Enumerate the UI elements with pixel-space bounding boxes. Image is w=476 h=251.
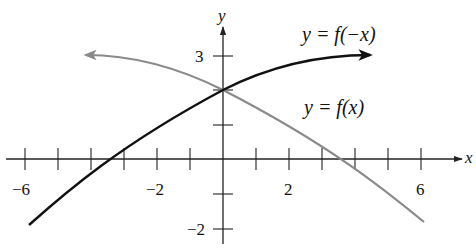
- y-axis-label: y: [216, 6, 226, 25]
- tick-label-x-neg2: −2: [146, 180, 164, 199]
- curve-f-x: [86, 55, 424, 222]
- annotation-f-neg-x: y = f(−x): [300, 23, 376, 46]
- tick-label-y-3: 3: [195, 47, 204, 66]
- graph: y x −6 −2 2 6 3 −2 y = f(−x) y = f(x): [0, 0, 476, 251]
- curve-f-neg-x: [29, 55, 370, 225]
- annotation-f-x: y = f(x): [302, 96, 364, 119]
- tick-label-x-2: 2: [284, 180, 293, 199]
- x-axis-label: x: [464, 148, 473, 167]
- tick-label-y-neg2: −2: [187, 220, 205, 239]
- tick-label-x-6: 6: [416, 180, 425, 199]
- tick-label-x-neg6: −6: [12, 180, 30, 199]
